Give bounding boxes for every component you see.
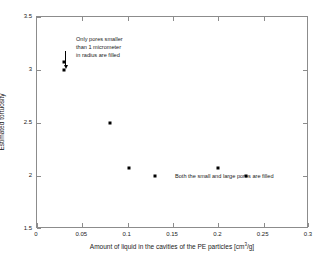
- x-tick-top-0_05: [82, 17, 83, 21]
- y-tick-2: [37, 176, 41, 177]
- x-tick-top-0_2: [218, 17, 219, 21]
- y-axis-label: Estimated tortuosity: [0, 47, 5, 197]
- x-tick-0: [37, 223, 38, 227]
- y-tick-label-3_5: 3.5: [24, 13, 32, 19]
- data-point: [63, 69, 66, 72]
- data-point: [244, 175, 247, 178]
- data-point: [217, 166, 220, 169]
- x-tick-0_1: [128, 223, 129, 227]
- y-tick-right-3: [303, 70, 307, 71]
- x-tick-label-0_3: 0.3: [304, 231, 312, 237]
- data-point: [127, 166, 130, 169]
- y-tick-label-2_5: 2.5: [24, 119, 32, 125]
- y-tick-right-2: [303, 176, 307, 177]
- x-axis-label: Amount of liquid in the cavities of the …: [36, 243, 308, 251]
- x-tick-label-0: 0: [34, 231, 37, 237]
- data-point: [63, 60, 66, 63]
- y-tick-3_5: [37, 17, 41, 18]
- x-axis-label-prefix: Amount of liquid in the cavities of the …: [90, 243, 245, 250]
- x-tick-0_15: [173, 223, 174, 227]
- chart-figure: Estimated tortuosity 1.5 2 2.5 3 3.5 0 0…: [0, 0, 326, 266]
- x-tick-label-0_2: 0.2: [213, 231, 221, 237]
- x-tick-top-0_15: [173, 17, 174, 21]
- annotation-both-pores: Both the small and large pores are fille…: [175, 172, 274, 180]
- plot-area: Only pores smaller than 1 micrometer in …: [36, 16, 308, 228]
- y-tick-2_5: [37, 123, 41, 124]
- annotation-small-pores: Only pores smaller than 1 micrometer in …: [76, 35, 123, 59]
- data-point: [153, 175, 156, 178]
- x-tick-label-0_15: 0.15: [166, 231, 178, 237]
- data-point: [108, 122, 111, 125]
- y-tick-right-2_5: [303, 123, 307, 124]
- x-tick-top-0_1: [128, 17, 129, 21]
- x-tick-label-0_05: 0.05: [75, 231, 87, 237]
- x-tick-0_2: [218, 223, 219, 227]
- x-tick-0_05: [82, 223, 83, 227]
- y-tick-label-3: 3: [29, 66, 32, 72]
- x-tick-0_25: [264, 223, 265, 227]
- x-axis-label-suffix: /g]: [247, 243, 254, 250]
- x-tick-label-0_1: 0.1: [123, 231, 131, 237]
- x-tick-0_3: [308, 223, 309, 227]
- y-tick-label-1_5: 1.5: [24, 225, 32, 231]
- y-tick-1_5: [37, 228, 41, 229]
- x-tick-top-0_25: [264, 17, 265, 21]
- x-tick-label-0_25: 0.25: [257, 231, 269, 237]
- y-tick-3: [37, 70, 41, 71]
- y-tick-label-2: 2: [29, 172, 32, 178]
